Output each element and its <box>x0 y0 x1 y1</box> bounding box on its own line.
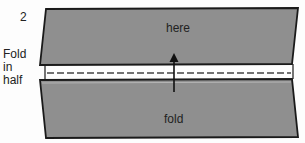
top-panel-label: here <box>166 22 190 35</box>
step-number: 2 <box>20 11 27 24</box>
bottom-panel <box>40 79 298 138</box>
side-label-line: half <box>3 74 26 87</box>
bottom-panel-label: fold <box>164 113 183 126</box>
fold-diagram <box>0 0 305 143</box>
fold-in-half-label: Fold in half <box>3 48 26 87</box>
top-panel <box>40 8 298 65</box>
